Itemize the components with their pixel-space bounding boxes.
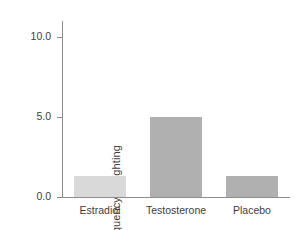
y-tick-label: 5.0 <box>5 111 51 122</box>
bar-estradiol <box>74 176 126 197</box>
bar-placebo <box>226 176 278 197</box>
plot-area <box>62 21 290 197</box>
y-tick-label: 0.0 <box>5 191 51 202</box>
y-tick-mark <box>57 197 63 198</box>
x-axis-label-placebo: Placebo <box>192 204 303 216</box>
x-axis-line <box>62 197 290 198</box>
y-tick-label: 10.0 <box>5 31 51 42</box>
bar-chart-figure: Frequency of fighting 0.05.010.0 Estradi… <box>0 0 303 230</box>
bar-testosterone <box>150 117 202 197</box>
